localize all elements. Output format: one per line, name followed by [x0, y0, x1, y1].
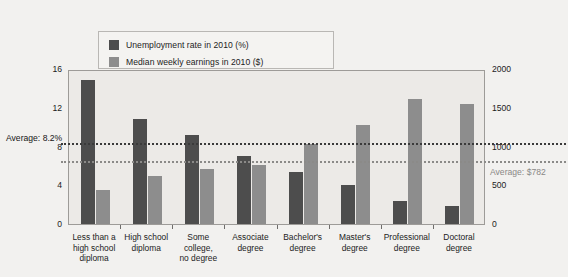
bar-median-weekly-earnings — [460, 104, 474, 224]
bar-unemployment-rate — [393, 201, 407, 224]
bar-unemployment-rate — [185, 135, 199, 224]
unemployment-average-line — [61, 143, 566, 145]
bar-group — [330, 71, 382, 224]
plot-area — [68, 70, 485, 225]
y-axis-tick-label: 0 — [22, 219, 62, 229]
y-axis-tick-label: 8 — [22, 142, 62, 152]
x-axis-category-label: Doctoraldegree — [422, 232, 496, 253]
square-swatch-light-icon — [109, 57, 119, 67]
y2-axis-tick-label: 500 — [492, 180, 536, 190]
bar-group — [173, 71, 225, 224]
bar-group — [121, 71, 173, 224]
chart-legend: Unemployment rate in 2010 (%) Median wee… — [98, 31, 334, 69]
chart-figure: Unemployment rate in 2010 (%) Median wee… — [0, 0, 568, 277]
bar-median-weekly-earnings — [96, 190, 110, 224]
legend-item-unemployment: Unemployment rate in 2010 (%) — [109, 37, 333, 52]
earnings-average-line — [61, 161, 566, 163]
x-axis-tick — [172, 225, 173, 229]
legend-item-earnings: Median weekly earnings in 2010 ($) — [109, 54, 333, 69]
bars-container — [69, 71, 484, 224]
bar-unemployment-rate — [237, 156, 251, 224]
y-axis-tick-label: 16 — [22, 64, 62, 74]
bar-unemployment-rate — [445, 206, 459, 224]
bar-median-weekly-earnings — [200, 169, 214, 224]
x-axis-tick — [277, 225, 278, 229]
bar-median-weekly-earnings — [148, 176, 162, 225]
y-axis-tick-label: 12 — [22, 103, 62, 113]
x-axis-tick — [329, 225, 330, 229]
bar-group — [434, 71, 486, 224]
bar-group — [278, 71, 330, 224]
bar-group — [225, 71, 277, 224]
bar-group — [382, 71, 434, 224]
unemployment-average-annotation: Average: 8.2% — [6, 133, 62, 143]
legend-item-label: Unemployment rate in 2010 (%) — [126, 40, 249, 50]
bar-unemployment-rate — [289, 172, 303, 224]
x-axis-tick — [433, 225, 434, 229]
bar-unemployment-rate — [81, 80, 95, 224]
bar-median-weekly-earnings — [304, 144, 318, 224]
bar-unemployment-rate — [341, 185, 355, 224]
x-axis-tick — [381, 225, 382, 229]
y2-axis-tick-label: 0 — [492, 219, 536, 229]
square-swatch-dark-icon — [109, 40, 119, 50]
bar-unemployment-rate — [133, 119, 147, 224]
earnings-average-annotation: Average: $782 — [490, 167, 546, 177]
y2-axis-tick-label: 2000 — [492, 64, 536, 74]
bar-median-weekly-earnings — [252, 165, 266, 224]
x-axis-tick — [120, 225, 121, 229]
bar-median-weekly-earnings — [356, 125, 370, 224]
bar-group — [69, 71, 121, 224]
y-axis-tick-label: 4 — [22, 180, 62, 190]
y2-axis-tick-label: 1500 — [492, 103, 536, 113]
legend-item-label: Median weekly earnings in 2010 ($) — [126, 57, 263, 67]
x-axis-tick — [224, 225, 225, 229]
